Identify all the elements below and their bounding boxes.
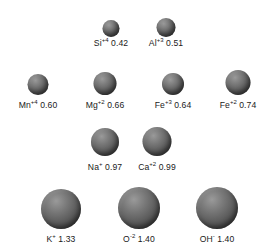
ion-charge-superscript: +2 [149,161,156,167]
sphere-icon-na [91,128,119,156]
ion-radius-value: 0.99 [159,162,176,172]
ion-k: K+1.33 [41,189,81,229]
ion-fe3: Fe+30.64 [162,73,184,95]
ion-oh: OH-1.40 [196,187,238,229]
ion-element-symbol: Na [88,162,99,172]
sphere-icon-mn [28,74,49,95]
sphere-container-si [103,20,120,37]
ion-element-symbol: Si [94,38,102,48]
sphere-icon-al [157,18,176,37]
ion-radius-value: 1.33 [58,234,75,244]
ion-label-fe3: Fe+30.64 [155,99,192,109]
ion-radius-value: 0.64 [174,100,191,110]
sphere-icon-fe3 [162,73,184,95]
ion-na: Na+0.97 [91,128,119,156]
ion-element-symbol: O [123,234,130,244]
sphere-container-k [41,189,81,229]
sphere-icon-oh [196,187,238,229]
sphere-icon-o [118,187,160,229]
sphere-icon-ca [143,127,172,156]
sphere-container-oh [196,187,238,229]
ion-charge-superscript: +2 [230,99,237,105]
sphere-container-o [118,187,160,229]
ion-radius-value: 1.40 [138,234,155,244]
ion-label-si: Si+40.42 [94,37,128,47]
ion-label-oh: OH-1.40 [200,233,235,243]
ion-element-symbol: Mn [19,100,31,110]
sphere-container-fe3 [162,73,184,95]
ion-mn: Mn+40.60 [28,74,49,95]
ion-radius-value: 0.74 [239,100,256,110]
ion-label-mn: Mn+40.60 [19,99,58,109]
ion-label-na: Na+0.97 [88,161,122,171]
sphere-container-na [91,128,119,156]
ion-element-symbol: Fe [220,100,230,110]
ion-charge-superscript: + [52,233,56,239]
ion-element-symbol: Fe [155,100,165,110]
ion-element-symbol: Ca [138,162,149,172]
ion-radius-value: 0.60 [40,100,57,110]
ion-label-o: O-21.40 [123,233,155,243]
ion-charge-superscript: +4 [102,37,109,43]
sphere-container-al [157,18,176,37]
ion-charge-superscript: +3 [165,99,172,105]
ion-label-mg: Mg+20.66 [86,99,125,109]
ion-label-k: K+1.33 [47,233,76,243]
ion-charge-superscript: +4 [31,99,38,105]
sphere-icon-fe2 [226,70,251,95]
ion-element-symbol: Mg [86,100,98,110]
ion-charge-superscript: - [213,233,215,239]
ion-charge-superscript: +3 [157,37,164,43]
ion-radius-value: 0.66 [107,100,124,110]
ion-radius-value: 0.51 [166,38,183,48]
sphere-container-mg [94,72,117,95]
sphere-icon-mg [94,72,117,95]
ion-al: Al+30.51 [157,18,176,37]
ion-si: Si+40.42 [103,20,120,37]
ion-charge-superscript: + [99,161,103,167]
ion-element-symbol: OH [200,234,213,244]
ion-radius-value: 0.97 [105,162,122,172]
sphere-container-fe2 [226,70,251,95]
sphere-container-mn [28,74,49,95]
ion-label-al: Al+30.51 [149,37,183,47]
ion-mg: Mg+20.66 [94,72,117,95]
ion-fe2: Fe+20.74 [226,70,251,95]
ion-label-ca: Ca+20.99 [138,161,176,171]
sphere-icon-si [103,20,120,37]
ion-o: O-21.40 [118,187,160,229]
ion-radius-value: 0.42 [111,38,128,48]
ion-ca: Ca+20.99 [143,127,172,156]
ion-label-fe2: Fe+20.74 [220,99,257,109]
ion-charge-superscript: +2 [98,99,105,105]
ion-radius-value: 1.40 [217,234,234,244]
ion-charge-superscript: -2 [130,233,135,239]
ion-element-symbol: Al [149,38,157,48]
sphere-container-ca [143,127,172,156]
ionic-radii-diagram: Si+40.42Al+30.51Mn+40.60Mg+20.66Fe+30.64… [0,0,275,246]
sphere-icon-k [41,189,81,229]
